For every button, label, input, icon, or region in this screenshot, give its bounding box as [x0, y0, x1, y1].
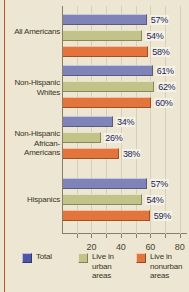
- bar: [63, 178, 147, 189]
- chart-legend: Total Live in urban areas Live in nonurb…: [22, 252, 189, 292]
- legend-item-nonurban: Live in nonurban areas: [136, 252, 182, 281]
- category-label-line: African-: [2, 139, 60, 149]
- category-label-line: Non-Hispanic: [2, 78, 60, 88]
- x-axis-tick: [165, 234, 166, 238]
- legend-item-total: Total: [22, 252, 52, 263]
- bar-value-label: 60%: [154, 98, 173, 108]
- legend-label-line: areas: [150, 271, 182, 281]
- legend-label-nonurban: Live in nonurban areas: [150, 252, 182, 281]
- legend-swatch-icon: [22, 253, 32, 263]
- plot-area: 20406080 57%54%58%61%62%60%34%26%38%57%5…: [62, 6, 187, 234]
- x-axis-tick-label: 60: [139, 242, 161, 252]
- category-label-non-hispanic-african-americans: Non-Hispanic African- Americans: [2, 129, 60, 158]
- bar-value-label: 62%: [157, 82, 176, 92]
- legend-label-urban: Live in urban areas: [92, 252, 114, 281]
- category-label-hispanics: Hispanics: [2, 195, 60, 205]
- x-axis-tick: [91, 234, 92, 238]
- bar: [63, 210, 150, 221]
- legend-label-line: Total: [36, 252, 52, 261]
- bar-value-label: 54%: [145, 195, 164, 205]
- x-axis-tick: [150, 234, 151, 238]
- legend-label-line: Live in: [150, 252, 182, 262]
- bar: [63, 97, 151, 108]
- bar: [63, 14, 147, 25]
- bar: [63, 30, 142, 41]
- gridline: [180, 6, 181, 234]
- bar-value-label: 58%: [151, 47, 170, 57]
- legend-label-total: Total: [36, 252, 52, 262]
- legend-label-line: Live in: [92, 252, 114, 262]
- bar-value-label: 34%: [116, 117, 135, 127]
- legend-label-line: nonurban: [150, 262, 182, 272]
- legend-swatch-icon: [136, 253, 146, 263]
- bar-value-label: 59%: [153, 211, 172, 221]
- x-axis-tick-label: 20: [80, 242, 102, 252]
- x-axis-tick-label: 40: [110, 242, 132, 252]
- x-axis-tick: [121, 234, 122, 238]
- bar-value-label: 57%: [150, 179, 169, 189]
- legend-label-line: urban: [92, 262, 114, 272]
- bar-value-label: 57%: [150, 15, 169, 25]
- bar-value-label: 54%: [145, 31, 164, 41]
- category-label-line: Whites: [2, 88, 60, 98]
- category-label-line: Hispanics: [2, 195, 60, 205]
- category-label-line: All Americans: [2, 27, 60, 37]
- category-label-non-hispanic-whites: Non-Hispanic Whites: [2, 78, 60, 97]
- x-axis-tick: [106, 234, 107, 238]
- bar: [63, 194, 142, 205]
- bar: [63, 132, 101, 143]
- legend-label-line: areas: [92, 271, 114, 281]
- x-axis-line: [62, 233, 187, 234]
- category-label-all-americans: All Americans: [2, 27, 60, 37]
- bar: [63, 46, 148, 57]
- bar-value-label: 26%: [104, 133, 123, 143]
- bar-value-label: 61%: [156, 66, 175, 76]
- bar: [63, 81, 154, 92]
- x-axis-tick: [77, 234, 78, 238]
- bar: [63, 65, 153, 76]
- category-label-line: Non-Hispanic: [2, 129, 60, 139]
- bar: [63, 116, 113, 127]
- bar: [63, 148, 119, 159]
- bar-value-label: 38%: [122, 149, 141, 159]
- category-label-line: Americans: [2, 148, 60, 158]
- chart-figure: All Americans Non-Hispanic Whites Non-Hi…: [0, 0, 189, 292]
- gridline: [165, 6, 166, 234]
- legend-item-urban: Live in urban areas: [78, 252, 114, 281]
- legend-swatch-icon: [78, 253, 88, 263]
- x-axis-tick: [180, 234, 181, 238]
- x-axis-tick-label: 80: [169, 242, 189, 252]
- x-axis-tick: [136, 234, 137, 238]
